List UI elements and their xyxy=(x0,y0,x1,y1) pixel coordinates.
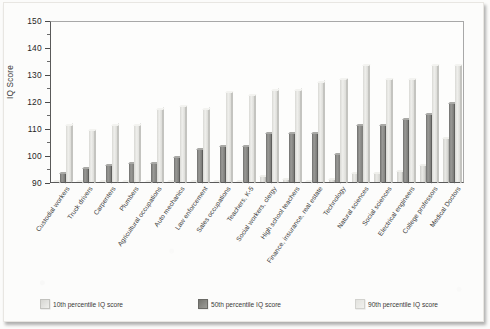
swatch-10th-icon xyxy=(40,299,50,309)
y-axis-tick-label: 140 xyxy=(27,43,42,53)
x-axis-labels: Custodial workersTruck driversCarpenters… xyxy=(50,185,464,271)
bar-50th-percentile xyxy=(380,125,385,182)
bar-group xyxy=(303,22,326,182)
bar-50th-percentile xyxy=(220,147,225,182)
bar-50th-percentile xyxy=(60,174,65,182)
bar-face xyxy=(352,174,357,182)
bar-side xyxy=(346,78,348,183)
y-axis-tick-label: 90 xyxy=(32,178,42,188)
bar-90th-percentile xyxy=(66,125,71,182)
bar-side xyxy=(254,94,256,183)
bar-group xyxy=(417,22,440,182)
bar-90th-percentile xyxy=(455,66,460,182)
bar-10th-percentile xyxy=(420,166,425,182)
bar-side xyxy=(460,65,462,184)
bar-90th-percentile xyxy=(226,93,231,182)
bar-face xyxy=(112,125,117,182)
bar-top-cap xyxy=(65,124,73,126)
bar-side xyxy=(185,105,187,183)
bar-90th-percentile xyxy=(386,79,391,182)
chart-legend: 10th percentile IQ score 50th percentile… xyxy=(40,297,480,311)
bar-side xyxy=(139,124,141,183)
bar-side xyxy=(94,129,96,183)
bar-50th-percentile xyxy=(357,125,362,182)
bar-top-cap xyxy=(294,89,302,91)
bar-group xyxy=(371,22,394,182)
bar-50th-percentile xyxy=(151,163,156,182)
bar-group xyxy=(143,22,166,182)
bar-group xyxy=(51,22,74,182)
bar-face xyxy=(374,174,379,182)
bar-10th-percentile xyxy=(283,179,288,182)
bar-90th-percentile xyxy=(249,96,254,182)
bar-face xyxy=(340,79,345,182)
bar-90th-percentile xyxy=(295,90,300,182)
bar-face xyxy=(335,155,340,182)
bar-side xyxy=(277,89,279,184)
bar-90th-percentile xyxy=(363,66,368,182)
bar-group xyxy=(440,22,463,182)
bar-90th-percentile xyxy=(112,125,117,182)
legend-label-90th: 90th percentile IQ score xyxy=(368,301,438,308)
y-axis-tick-label: 120 xyxy=(27,97,42,107)
y-axis-tick-label: 130 xyxy=(27,70,42,80)
bar-10th-percentile xyxy=(443,139,448,182)
bar-face xyxy=(151,163,156,182)
bar-50th-percentile xyxy=(243,147,248,182)
bar-side xyxy=(208,108,210,184)
chart-page: IQ Score 90100110120130140150 Custodial … xyxy=(0,0,490,329)
bar-group xyxy=(280,22,303,182)
bar-face xyxy=(357,125,362,182)
bar-top-cap xyxy=(202,108,210,110)
x-axis-label-text: Plumbers xyxy=(117,185,139,212)
bar-10th-percentile xyxy=(374,174,379,182)
bar-10th-percentile xyxy=(260,177,265,182)
bar-group xyxy=(74,22,97,182)
bar-side xyxy=(231,92,233,184)
bar-10th-percentile xyxy=(329,179,334,182)
bar-top-cap xyxy=(271,89,279,91)
legend-item-10th: 10th percentile IQ score xyxy=(40,299,123,309)
bar-50th-percentile xyxy=(289,133,294,182)
y-axis-tick-label: 150 xyxy=(27,16,42,26)
bar-top-cap xyxy=(88,129,96,131)
bar-50th-percentile xyxy=(403,120,408,182)
bar-side xyxy=(117,124,119,183)
legend-item-50th: 50th percentile IQ score xyxy=(198,299,281,309)
bar-top-cap xyxy=(156,108,164,110)
legend-item-90th: 90th percentile IQ score xyxy=(355,299,438,309)
bar-group xyxy=(120,22,143,182)
x-axis-label-text: Agricultural occupations xyxy=(116,185,163,247)
bar-10th-percentile xyxy=(397,171,402,182)
bar-90th-percentile xyxy=(203,109,208,182)
bar-10th-percentile xyxy=(352,174,357,182)
bar-group xyxy=(211,22,234,182)
bar-90th-percentile xyxy=(157,109,162,182)
bar-group xyxy=(349,22,372,182)
bar-50th-percentile xyxy=(83,169,88,183)
bar-side xyxy=(437,65,439,184)
bar-side xyxy=(300,89,302,184)
legend-label-50th: 50th percentile IQ score xyxy=(211,301,281,308)
legend-label-10th: 10th percentile IQ score xyxy=(53,301,123,308)
bar-50th-percentile xyxy=(449,104,454,182)
chart-paper-frame: IQ Score 90100110120130140150 Custodial … xyxy=(3,2,484,322)
swatch-50th-icon xyxy=(198,299,208,309)
bar-side xyxy=(71,124,73,183)
swatch-90th-icon xyxy=(355,299,365,309)
bar-50th-percentile xyxy=(335,155,340,182)
bar-face xyxy=(318,82,323,182)
bar-side xyxy=(162,108,164,184)
bar-90th-percentile xyxy=(409,79,414,182)
bar-50th-percentile xyxy=(129,163,134,182)
bar-group xyxy=(257,22,280,182)
bar-50th-percentile xyxy=(266,133,271,182)
y-axis-tick-label: 100 xyxy=(27,151,42,161)
bar-group xyxy=(188,22,211,182)
x-axis-label-text: Carpenters xyxy=(92,185,117,216)
bar-50th-percentile xyxy=(197,150,202,182)
bar-groups xyxy=(51,22,463,182)
bar-90th-percentile xyxy=(318,82,323,182)
x-axis-label-text: Social workers, clergy xyxy=(234,185,277,242)
bar-90th-percentile xyxy=(340,79,345,182)
